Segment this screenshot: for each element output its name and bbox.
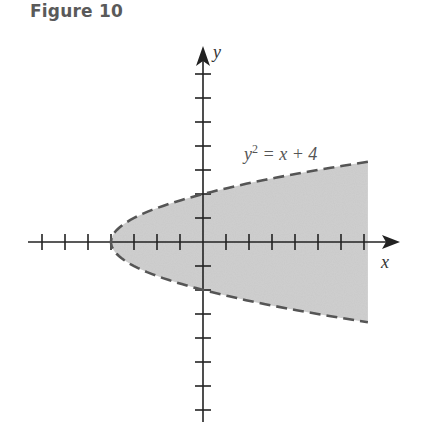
x-axis-label: x: [380, 252, 389, 272]
y-axis-label: y: [211, 42, 221, 62]
parabola-region-plot: y x y2 = x + 4: [0, 0, 423, 446]
equation-label: y2 = x + 4: [242, 142, 317, 164]
